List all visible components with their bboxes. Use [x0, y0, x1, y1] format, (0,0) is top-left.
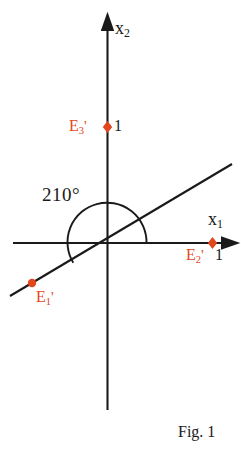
x2-axis-label: x2 [115, 19, 130, 40]
point-label-E1prime: E1' [36, 289, 54, 308]
point-label-E3prime-prime: ' [84, 117, 87, 134]
point-unit-E2prime: 1 [215, 247, 223, 263]
point-label-E1prime-prime: ' [51, 288, 54, 305]
point-marker-E1prime[interactable] [28, 279, 36, 287]
figure-container: x2 x1 E3' 1 E2' 1 E1' 210° Fig. 1 [0, 0, 241, 454]
point-label-E3prime-base: E [69, 117, 79, 134]
x1-axis-label: x1 [208, 210, 223, 231]
point-label-E2prime-prime: ' [201, 246, 204, 263]
point-unit-E3prime: 1 [114, 118, 122, 134]
point-label-E1prime-base: E [36, 288, 46, 305]
x1-axis-label-base: x [208, 209, 217, 229]
point-label-E3prime: E3' [69, 118, 87, 137]
x1-axis-label-subscript: 1 [217, 217, 223, 231]
figure-caption: Fig. 1 [178, 424, 215, 440]
point-label-E2prime: E2' [186, 247, 204, 266]
point-marker-E3prime[interactable] [103, 121, 112, 133]
x2-axis-label-subscript: 2 [124, 26, 130, 40]
point-label-E2prime-base: E [186, 246, 196, 263]
angle-label: 210° [42, 185, 80, 204]
x2-axis-label-base: x [115, 18, 124, 38]
coordinate-diagram [0, 0, 241, 454]
